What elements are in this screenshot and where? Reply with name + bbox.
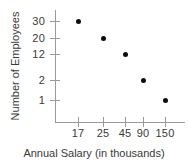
y-axis-tick (50, 38, 60, 39)
scatter-plot: 30201221 17254590150 Number of Employees… (0, 0, 188, 166)
y-axis-title: Number of Employees (9, 1, 21, 131)
data-point (76, 19, 81, 24)
data-point (163, 98, 168, 103)
x-axis-tick (78, 117, 79, 127)
x-axis-tick-label: 150 (150, 128, 180, 139)
data-point (123, 52, 128, 57)
x-axis-tick (103, 117, 104, 127)
x-axis-tick (125, 117, 126, 127)
x-axis-title: Annual Salary (in thousands) (0, 147, 188, 159)
y-axis-tick (50, 100, 60, 101)
data-point (101, 36, 106, 41)
y-axis-tick (50, 54, 60, 55)
y-axis-tick (50, 21, 60, 22)
y-axis-line (55, 10, 56, 123)
y-axis-tick (50, 80, 60, 81)
x-axis-tick (165, 117, 166, 127)
x-axis-tick (143, 117, 144, 127)
data-point (141, 78, 146, 83)
